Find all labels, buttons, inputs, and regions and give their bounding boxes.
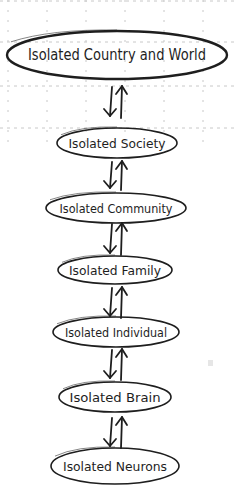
- faint-mark-icon: [208, 360, 213, 366]
- node-country: Isolated Country and World: [7, 30, 227, 79]
- node-label: Isolated Individual: [65, 325, 167, 340]
- node-community: Isolated Community: [46, 192, 186, 223]
- bidirectional-arrows-icon: [104, 223, 127, 255]
- bidirectional-arrows-icon: [104, 349, 127, 380]
- node-label: Isolated Community: [60, 201, 173, 216]
- node-society: Isolated Society: [57, 127, 177, 158]
- node-label: Isolated Family: [69, 263, 161, 278]
- node-individual: Isolated Individual: [53, 316, 179, 347]
- diagram-canvas: Isolated Country and WorldIsolated Socie…: [0, 0, 235, 502]
- node-family: Isolated Family: [58, 255, 172, 284]
- node-label: Isolated Society: [69, 136, 166, 151]
- node-brain: Isolated Brain: [59, 381, 171, 412]
- node-label: Isolated Brain: [70, 390, 161, 405]
- bidirectional-arrows-icon: [104, 417, 127, 448]
- bidirectional-arrows-icon: [104, 287, 127, 318]
- node-neurons: Isolated Neurons: [51, 447, 179, 484]
- bidirectional-arrows-icon: [104, 161, 127, 190]
- nodes: Isolated Country and WorldIsolated Socie…: [7, 30, 227, 484]
- node-label: Isolated Country and World: [28, 46, 206, 64]
- bidirectional-arrows-icon: [104, 86, 127, 118]
- node-label: Isolated Neurons: [63, 459, 167, 474]
